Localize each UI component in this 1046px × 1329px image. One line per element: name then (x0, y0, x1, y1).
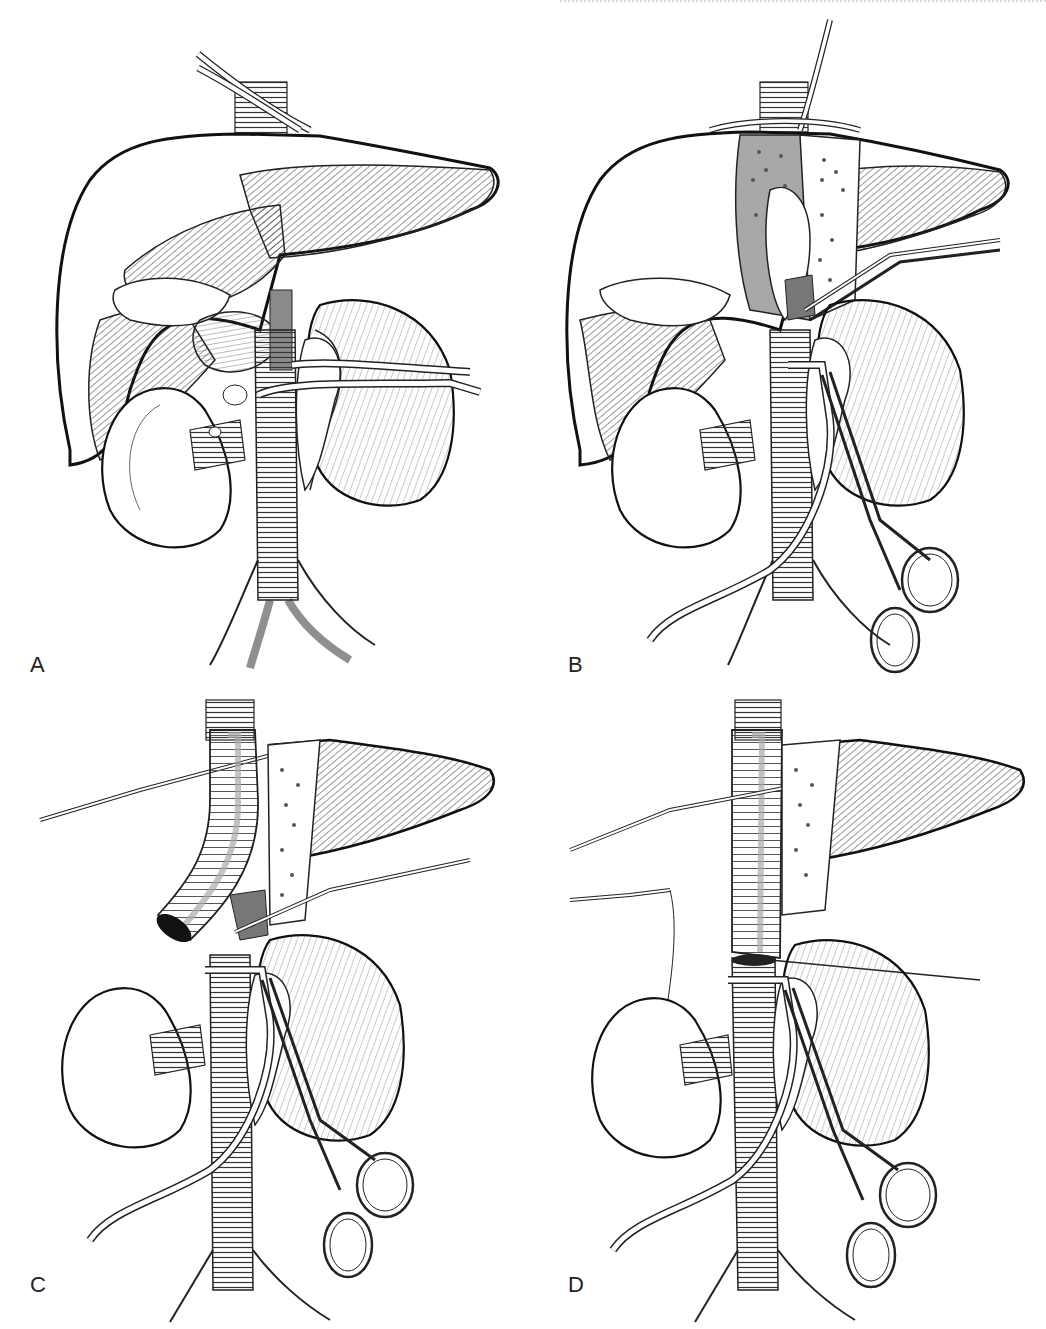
panel-b-illustration (560, 0, 1040, 680)
panel-label-d: D (568, 1272, 584, 1298)
panel-label-a: A (30, 652, 45, 678)
panel-label-c: C (30, 1272, 46, 1298)
figure-panel-b: B (560, 0, 1040, 680)
infrahepatic-ivc (255, 330, 298, 600)
figure-panel-a: A (30, 0, 530, 680)
panel-label-b: B (568, 652, 583, 678)
right-kidney (102, 388, 230, 547)
figure-panel-d: D (560, 690, 1040, 1329)
figure-panel-c: C (30, 690, 530, 1329)
panel-c-illustration (30, 690, 530, 1329)
panel-d-illustration (560, 690, 1040, 1329)
panel-a-illustration (30, 0, 530, 680)
